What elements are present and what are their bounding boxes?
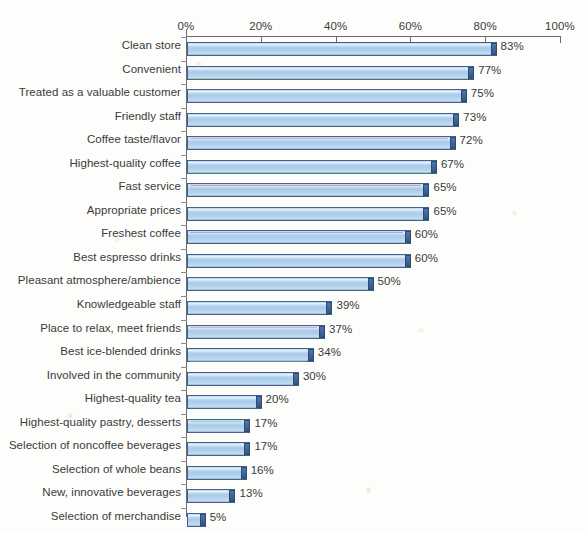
bar-value-label: 34% <box>318 346 341 358</box>
bar-value-label: 17% <box>254 440 277 452</box>
bar-end-cap <box>405 255 411 267</box>
y-tick-mark <box>181 414 187 415</box>
category-label: Appropriate prices <box>87 204 181 216</box>
bar <box>187 466 247 480</box>
bar-highlight <box>188 397 256 400</box>
bar-end-cap <box>308 349 314 361</box>
bar-highlight <box>188 279 368 282</box>
bar-row: Highest-quality coffee67% <box>0 155 585 179</box>
y-tick-mark <box>181 320 187 321</box>
x-tick-label-100: 100% <box>545 20 575 32</box>
x-axis-left-cap <box>186 30 187 37</box>
bar-body <box>187 113 459 127</box>
bar-body <box>187 207 429 221</box>
bar-row: Selection of noncoffee beverages17% <box>0 437 585 461</box>
bar-end-cap <box>326 302 332 314</box>
x-tick-label-60: 60% <box>399 20 422 32</box>
bar-value-label: 50% <box>378 275 401 287</box>
bar <box>187 442 250 456</box>
bar-end-cap <box>200 514 206 526</box>
bar <box>187 207 429 221</box>
y-tick-mark <box>181 484 187 485</box>
bar-end-cap <box>241 467 247 479</box>
bar-body <box>187 183 429 197</box>
bar-value-label: 65% <box>433 205 456 217</box>
y-tick-mark <box>181 202 187 203</box>
bar-row: Selection of whole beans16% <box>0 461 585 485</box>
category-label: New, innovative beverages <box>42 486 181 498</box>
bar-highlight <box>188 91 461 94</box>
bar-end-cap <box>293 373 299 385</box>
bar <box>187 42 497 56</box>
bar-highlight <box>188 303 326 306</box>
bar-row: Involved in the community30% <box>0 367 585 391</box>
bar-row: Freshest coffee60% <box>0 225 585 249</box>
y-tick-mark <box>181 272 187 273</box>
bar-row: Convenient77% <box>0 61 585 85</box>
bar-value-label: 65% <box>433 181 456 193</box>
bar-end-cap <box>423 184 429 196</box>
scan-fringe <box>190 421 242 422</box>
bar-row: New, innovative beverages13% <box>0 484 585 508</box>
y-tick-mark <box>181 108 187 109</box>
bar-row: Selection of merchandise5% <box>0 508 585 532</box>
bar <box>187 136 456 150</box>
category-label: Highest-quality tea <box>85 392 181 404</box>
bar <box>187 348 314 362</box>
bar-body <box>187 325 325 339</box>
bar <box>187 419 250 433</box>
bar <box>187 489 235 503</box>
bar-value-label: 16% <box>251 464 274 476</box>
category-label: Highest-quality coffee <box>70 157 181 169</box>
y-tick-mark <box>181 508 187 509</box>
bar-body <box>187 419 250 433</box>
bar <box>187 66 474 80</box>
bar-highlight <box>188 491 229 494</box>
bar-highlight <box>188 162 431 165</box>
y-tick-mark <box>181 367 187 368</box>
category-label: Knowledgeable staff <box>77 298 181 310</box>
scan-fringe <box>190 138 448 139</box>
bar-value-label: 73% <box>463 111 486 123</box>
bar-end-cap <box>468 67 474 79</box>
bar-row: Treated as a valuable customer75% <box>0 84 585 108</box>
bar-row: Friendly staff73% <box>0 108 585 132</box>
category-label: Convenient <box>122 63 181 75</box>
bar-body <box>187 136 456 150</box>
bar-row: Fast service65% <box>0 178 585 202</box>
bar-highlight <box>188 444 244 447</box>
y-tick-mark <box>181 296 187 297</box>
bar-value-label: 75% <box>471 87 494 99</box>
bar-highlight <box>188 515 200 518</box>
x-tick-label-20: 20% <box>249 20 272 32</box>
bar-value-label: 39% <box>336 299 359 311</box>
y-tick-mark <box>181 461 187 462</box>
bar-value-label: 20% <box>266 393 289 405</box>
category-label: Treated as a valuable customer <box>19 86 181 98</box>
bar-end-cap <box>450 137 456 149</box>
bar-body <box>187 66 474 80</box>
bar-highlight <box>188 232 405 235</box>
bar-row: Pleasant atmosphere/ambience50% <box>0 272 585 296</box>
bar-highlight <box>188 44 491 47</box>
bar-highlight <box>188 374 293 377</box>
bar-rows: Clean store83%Convenient77%Treated as a … <box>0 37 585 531</box>
bar-body <box>187 42 497 56</box>
bar <box>187 230 411 244</box>
bar-body <box>187 254 411 268</box>
scan-fringe <box>190 327 317 328</box>
bar-highlight <box>188 115 453 118</box>
bar-row: Highest-quality pastry, desserts17% <box>0 414 585 438</box>
bar-end-cap <box>431 161 437 173</box>
category-label: Fast service <box>118 180 181 192</box>
bar-body <box>187 160 437 174</box>
y-tick-mark <box>181 437 187 438</box>
scan-fringe <box>190 173 429 174</box>
bar-highlight <box>188 350 308 353</box>
scan-fringe <box>190 79 466 80</box>
bar <box>187 89 467 103</box>
bar-row: Coffee taste/flavor72% <box>0 131 585 155</box>
bar-highlight <box>188 256 405 259</box>
category-label: Selection of merchandise <box>51 510 181 522</box>
bar-highlight <box>188 185 423 188</box>
